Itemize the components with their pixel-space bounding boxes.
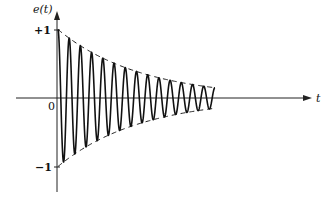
x-axis-label: t	[316, 93, 320, 104]
lower-envelope	[58, 108, 215, 166]
minus-one-label: −1	[35, 162, 52, 173]
y-axis-arrow-icon	[54, 11, 60, 20]
plus-one-label: +1	[34, 25, 51, 36]
chart-root: e(t) +1 −1 0 t	[0, 0, 328, 202]
damped-signal	[58, 30, 215, 163]
origin-label: 0	[48, 101, 55, 112]
y-axis-label: e(t)	[33, 4, 53, 15]
t-axis-arrow-icon	[303, 95, 312, 101]
